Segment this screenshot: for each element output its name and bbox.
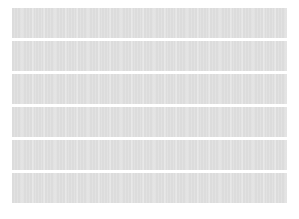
skeleton-placeholder-list xyxy=(12,8,287,203)
skeleton-bar xyxy=(12,8,287,38)
skeleton-bar xyxy=(12,173,287,203)
skeleton-bar xyxy=(12,74,287,104)
skeleton-bar-label xyxy=(12,140,13,141)
skeleton-bar xyxy=(12,107,287,137)
skeleton-bar xyxy=(12,41,287,71)
skeleton-bar-label xyxy=(12,8,13,9)
screen-root xyxy=(0,0,299,219)
skeleton-bar-label xyxy=(12,41,13,42)
skeleton-bar-label xyxy=(12,74,13,75)
skeleton-bar-label xyxy=(12,107,13,108)
skeleton-bar xyxy=(12,140,287,170)
skeleton-bar-label xyxy=(12,173,13,174)
